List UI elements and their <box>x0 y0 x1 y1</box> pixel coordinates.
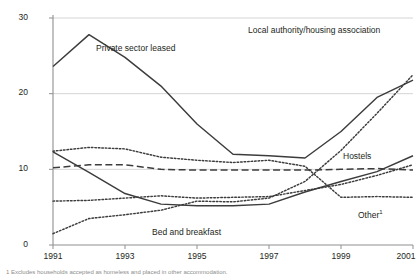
y-tick-label-30: 30 <box>4 13 28 22</box>
y-tick-label-20: 20 <box>4 88 28 97</box>
x-tick-label-1991: 1991 <box>37 252 69 261</box>
x-tick-label-1999: 1999 <box>325 252 357 261</box>
y-tick-label-0: 0 <box>4 240 28 249</box>
series-label-bed-and-breakfast: Bed and breakfast <box>152 228 221 238</box>
y-tick-label-10: 10 <box>4 164 28 173</box>
series-label-other-superscript: 1 <box>379 209 382 215</box>
homelessness-line-chart: 30 20 10 0 1991 1993 1995 1997 1999 2001… <box>0 0 420 278</box>
chart-footnote: 1 Excludes households accepted as homele… <box>6 269 416 278</box>
series-label-local-authority-housing-association: Local authority/housing association <box>248 26 372 36</box>
x-tick-label-1997: 1997 <box>253 252 285 261</box>
x-tick-label-2001: 2001 <box>392 252 420 261</box>
series-paths <box>53 35 413 234</box>
x-tick-label-1995: 1995 <box>181 252 213 261</box>
series-label-private-sector-leased: Private sector leased <box>96 44 175 54</box>
x-tick-label-1993: 1993 <box>109 252 141 261</box>
series-label-other-text: Other <box>358 210 379 220</box>
series-label-local-authority-line1: Local authority/housing association <box>248 25 380 35</box>
series-label-other: Other1 <box>358 209 383 221</box>
series-label-hostels: Hostels <box>343 152 371 162</box>
